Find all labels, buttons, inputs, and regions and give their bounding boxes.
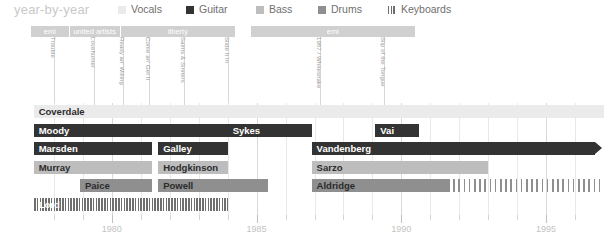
album-name-label: Slip of the Tongue [380, 37, 386, 87]
member-name-label: Aldridge [317, 179, 356, 192]
member-bar[interactable]: Coverdale [34, 105, 604, 118]
album-name-label: Ready an' Willing [119, 37, 125, 85]
timeline-row: Coverdale [0, 105, 580, 118]
axis-tick [372, 215, 373, 220]
legend-item-drums[interactable]: Drums [318, 3, 362, 15]
member-bar[interactable]: Sarzo [312, 161, 489, 174]
member-name-label: Marsden [39, 142, 78, 155]
member-bar[interactable]: Lord [34, 198, 228, 211]
album-name-label: Come an' Get It [145, 37, 151, 80]
member-name-label: Sykes [233, 124, 260, 137]
member-name-label: Vandenberg [317, 142, 371, 155]
legend-swatch-icon [186, 6, 194, 14]
axis-tick [488, 215, 489, 220]
timeline-row: MarsdenGalleyVandenberg [0, 142, 580, 155]
chart-header: year-by-year VocalsGuitarBassDrumsKeyboa… [0, 0, 580, 22]
member-bar[interactable]: Moody [34, 124, 228, 137]
axis-tick [575, 215, 576, 220]
legend-swatch-icon [388, 6, 396, 14]
album-marker[interactable]: Trouble [54, 37, 55, 109]
album-name-label: Trouble [50, 37, 56, 58]
legend-item-guitar[interactable]: Guitar [186, 3, 228, 15]
timeline-row: MurrayHodgkinsonSarzo [0, 161, 580, 174]
record-label-bar[interactable]: liberty [121, 26, 237, 37]
timeline-row: PaicePowellAldridge [0, 179, 580, 192]
member-name-label: Hodgkinson [163, 161, 218, 174]
timeline-row: MoodySykesVai [0, 124, 580, 137]
timeline-row: Lord [0, 198, 580, 211]
album-marker[interactable]: Ready an' Willing [123, 37, 124, 109]
member-name-label: Powell [163, 179, 193, 192]
record-label-bar[interactable]: emi [251, 26, 416, 37]
member-bar[interactable]: Vai [375, 124, 418, 137]
member-name-label: Lord [39, 198, 60, 211]
member-bar[interactable]: Paice [80, 179, 152, 192]
member-bar[interactable]: Murray [34, 161, 153, 174]
album-marker[interactable]: Slide It In [228, 37, 229, 109]
member-bar[interactable]: Galley [158, 142, 227, 155]
album-marker[interactable]: Lovehunter [94, 37, 95, 109]
legend-item-keyboards[interactable]: Keyboards [388, 3, 451, 15]
member-bar[interactable]: Powell [158, 179, 268, 192]
axis-tick [112, 215, 113, 223]
member-name-label: Sarzo [317, 161, 343, 174]
member-name-label: Coverdale [39, 105, 85, 118]
record-label-bar[interactable]: united artists [70, 26, 121, 37]
member-name-label: Galley [163, 142, 192, 155]
axis-tick [141, 215, 142, 220]
legend-label: Guitar [199, 3, 228, 15]
axis-tick [257, 215, 258, 223]
axis-tick [401, 215, 402, 223]
album-name-label: 1987 / Whitesnake [316, 37, 322, 88]
axis-tick [315, 215, 316, 220]
axis-tick [459, 215, 460, 220]
axis-tick [83, 215, 84, 220]
legend-item-bass[interactable]: Bass [256, 3, 292, 15]
member-name-label: Murray [39, 161, 71, 174]
legend-label: Keyboards [401, 3, 451, 15]
legend-swatch-icon [256, 6, 264, 14]
axis-tick [170, 215, 171, 220]
member-bar[interactable] [448, 179, 601, 192]
legend-swatch-icon [318, 6, 326, 14]
axis-tick-label: 1995 [536, 224, 556, 234]
legend-label: Bass [269, 3, 292, 15]
member-bar[interactable]: Aldridge [312, 179, 448, 192]
axis-tick [546, 215, 547, 223]
album-marker[interactable]: Saints & Sinners [184, 37, 185, 109]
member-bar[interactable]: Vandenberg [312, 142, 596, 155]
member-bar[interactable]: Hodgkinson [158, 161, 227, 174]
axis-tick-label: 1980 [102, 224, 122, 234]
axis-tick [228, 215, 229, 220]
timeline-plot: CoverdaleMoodySykesVaiMarsdenGalleyVande… [0, 103, 580, 215]
continues-arrow-icon [595, 142, 602, 154]
axis-tick [199, 215, 200, 220]
legend-label: Vocals [131, 3, 162, 15]
axis-tick-label: 1985 [247, 224, 267, 234]
legend-item-vocals[interactable]: Vocals [118, 3, 162, 15]
page-title: year-by-year [14, 2, 89, 17]
axis-tick-label: 1990 [391, 224, 411, 234]
album-name-label: Slide It In [224, 37, 230, 63]
album-marker[interactable]: Slip of the Tongue [384, 37, 385, 109]
record-label-band: emiunited artistslibertyemi [0, 26, 580, 37]
axis-tick [517, 215, 518, 220]
album-markers: TroubleLovehunterReady an' WillingCome a… [0, 37, 580, 109]
member-bar[interactable]: Sykes [228, 124, 312, 137]
member-name-label: Paice [85, 179, 110, 192]
x-axis: 1980198519901995 [0, 215, 580, 245]
axis-tick [286, 215, 287, 220]
album-name-label: Saints & Sinners [180, 37, 186, 83]
member-name-label: Moody [39, 124, 70, 137]
legend-swatch-icon [118, 6, 126, 14]
legend-label: Drums [331, 3, 362, 15]
axis-tick [430, 215, 431, 220]
axis-tick [54, 215, 55, 220]
album-marker[interactable]: 1987 / Whitesnake [320, 37, 321, 109]
member-name-label: Vai [380, 124, 394, 137]
member-bar[interactable]: Marsden [34, 142, 153, 155]
record-label-bar[interactable]: emi [31, 26, 70, 37]
axis-tick [343, 215, 344, 220]
album-marker[interactable]: Come an' Get It [149, 37, 150, 109]
album-name-label: Lovehunter [90, 37, 96, 68]
